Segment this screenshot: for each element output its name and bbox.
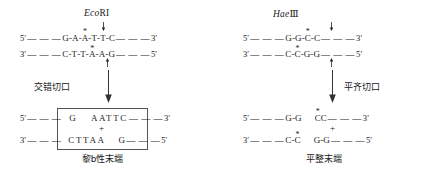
duplex-top-ecori: 5′ — — — G-A-A*-T-T-C — — — 3′ [0,30,212,45]
enzyme-name-italic: Eco [84,8,99,18]
left-flank: — — — [26,49,62,59]
enzyme-name-roman: Ⅲ [289,9,298,19]
left-fragment-bottom: C-C* [285,135,300,145]
base: A [99,49,106,59]
process-label-ecori: 交错切口 [34,80,70,93]
panel-ecori: EcoRI 5′ — — — G-A-A*-T-T-C — — — 3′ 3′ … [0,0,212,171]
left-flank: — — — [249,135,285,145]
enzyme-name-roman: RI [99,8,109,18]
right-flank: — — — [320,49,356,59]
duplex-top-haeiii: 5′ — — — G-G-C*-C — — — 3′ [213,30,425,45]
base: A* [82,33,89,43]
right-flank: — — — [320,33,356,43]
left-fragment-top: G-G [285,113,301,123]
methyl-star: * [90,45,94,53]
base: G [285,33,292,43]
product-top-ecori: 5′ — — — G AATTC — — — 3′ [0,110,212,125]
three-prime-end: 3′ [151,33,157,43]
base: A* [89,49,96,59]
result-label-ecori: 黎b性末端 [57,152,148,165]
cut-arrow-bottom-haeiii [328,58,335,67]
left-flank: — — — [26,135,62,145]
right-fragment-top: C*C [315,113,327,123]
base: C* [305,33,311,43]
base: G [304,49,311,59]
base: C [314,33,320,43]
base: C [285,49,291,59]
left-flank: — — — [249,33,285,43]
product-bottom-ecori: 3′ — — — CTTAA G — — — 5′ [0,132,212,147]
base: T [80,49,86,59]
base: C [62,49,68,59]
three-prime-end: 3′ [164,113,170,123]
left-fragment-bottom: CTTAA [68,135,105,145]
methyl-star: * [306,28,310,36]
left-fragment-top: G [69,113,76,123]
methyl-star: * [83,28,87,36]
left-flank: — — — [26,33,62,43]
right-fragment-bottom: G-G [314,135,330,145]
base: G [62,33,69,43]
base: T [91,33,97,43]
base-sequence-top: G-A-A*-T-T-C [62,33,115,43]
methyl-star: * [296,45,300,53]
left-flank: — — — [26,113,62,123]
right-flank: — — — [330,135,366,145]
three-prime-end: 3′ [363,113,369,123]
three-prime-end: 3′ [356,33,362,43]
base: C [109,33,115,43]
base: A [72,33,79,43]
panel-haeiii: HaeⅢ 5′ — — — G-G-C*-C — — — 3′ 3′ — — —… [213,0,425,171]
methyl-star: * [296,131,300,139]
result-label-haeiii: 平整末端 [278,152,369,165]
process-arrow-ecori [104,70,113,103]
process-arrow-haeiii [328,70,337,103]
base-sequence-top: G-G-C*-C [285,33,320,43]
right-flank: — — — [115,49,151,59]
cut-arrow-bottom-ecori [104,58,111,67]
left-flank: — — — [249,113,285,123]
five-prime-end: 5′ [161,135,167,145]
right-flank: — — — [115,33,151,43]
right-fragment-top: AATTC [91,113,128,123]
base: C* [295,49,301,59]
methyl-star: * [316,108,320,116]
base: G [313,49,320,59]
right-flank: — — — [125,135,161,145]
product-bottom-haeiii: 3′ — — — C-C* G-G — — — 5′ [213,132,425,147]
right-flank: — — — [327,113,363,123]
five-prime-end: 5′ [356,49,362,59]
enzyme-label-haeiii: HaeⅢ [273,8,299,19]
base: G [295,33,302,43]
base-sequence-bottom: C-T-T-A*-A-G [62,49,115,59]
base-sequence-bottom: C-C*-G-G [285,49,320,59]
five-prime-end: 5′ [151,49,157,59]
enzyme-name-italic: Hae [273,9,289,19]
duplex-bottom-haeiii: 3′ — — — C-C*-G-G — — — 5′ [213,46,425,61]
right-flank: — — — [128,113,164,123]
base: T [72,49,78,59]
product-top-haeiii: 5′ — — — G-G C*C — — — 3′ [213,110,425,125]
enzyme-label-ecori: EcoRI [84,8,109,18]
base: G [108,49,115,59]
base: T [100,33,106,43]
process-label-haeiii: 平齐切口 [344,80,380,93]
left-flank: — — — [249,49,285,59]
five-prime-end: 5′ [366,135,372,145]
right-fragment-bottom: G [119,135,126,145]
